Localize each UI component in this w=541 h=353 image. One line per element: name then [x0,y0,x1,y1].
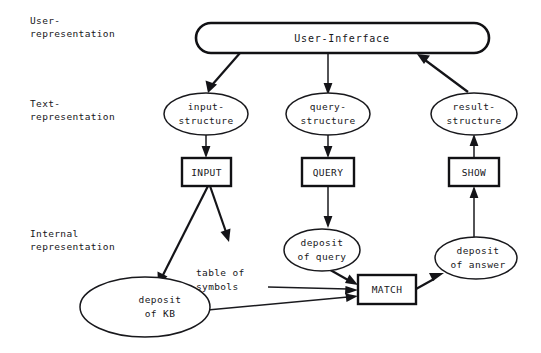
result-structure-label-line1: result- [453,101,496,112]
tier-label-text-line1: Text- [30,98,60,109]
edge-query-structure-to-query [324,134,333,158]
edge-table-of-symbols-to-match [268,286,358,295]
tier-label-user-line2: representation [30,28,115,39]
input-process-label: INPUT [191,167,222,178]
node-table-of-symbols[interactable]: table of symbols [196,267,245,292]
edge-query-to-deposit-of-query [324,186,333,228]
deposit-of-kb-label-line1: deposit [139,294,182,305]
tier-label-user-line1: User- [30,15,60,26]
tier-label-internal-representation: Internal representation [30,228,115,252]
result-structure-label-line2: structure [446,115,501,126]
node-input-process[interactable]: INPUT [182,158,231,186]
deposit-of-query-label-line1: deposit [301,237,344,248]
edge-ui-to-input-structure [206,53,241,93]
diagram-svg: User- representation Text- representatio… [0,0,541,353]
edge-ui-to-query-structure [324,53,333,95]
diagram-canvas: User- representation Text- representatio… [0,0,541,353]
node-match-process[interactable]: MATCH [358,275,416,304]
input-structure-label-line1: input- [188,101,225,112]
table-of-symbols-label-line2: symbols [196,281,239,292]
query-structure-label-line2: structure [300,115,355,126]
query-structure-label-line1: query- [310,101,347,112]
edge-deposit-of-answer-to-show [470,186,479,238]
show-process-label: SHOW [462,167,486,178]
edge-input-structure-to-input [202,134,211,158]
node-query-structure[interactable]: query- structure [286,93,370,135]
query-process-label: QUERY [313,167,344,178]
tier-label-user-representation: User- representation [30,15,115,39]
node-deposit-of-answer[interactable]: deposit of answer [435,237,517,279]
user-interface-label: User-Inferface [294,33,390,44]
node-show-process[interactable]: SHOW [449,158,499,186]
match-process-label: MATCH [372,284,403,295]
tier-label-internal-line2: representation [30,241,115,252]
edge-match-to-deposit-of-answer [416,273,444,289]
tier-label-text-line2: representation [30,111,115,122]
node-input-structure[interactable]: input- structure [164,93,248,135]
table-of-symbols-label-line1: table of [196,267,245,278]
input-structure-label-line2: structure [178,115,233,126]
edge-deposit-of-kb-to-match [186,294,358,313]
edge-result-structure-to-ui [417,54,468,92]
deposit-of-answer-label-line2: of answer [450,259,505,270]
deposit-of-query-label-line2: of query [298,251,347,262]
deposit-of-answer-label-line1: deposit [457,245,500,256]
tier-label-internal-line1: Internal [30,228,79,239]
edge-show-to-result-structure [470,134,479,158]
node-deposit-of-query[interactable]: deposit of query [284,229,360,271]
tier-label-text-representation: Text- representation [30,98,115,122]
deposit-of-kb-label-line2: of KB [145,308,176,319]
edge-input-to-table-of-symbols [210,186,231,242]
node-query-process[interactable]: QUERY [302,158,354,186]
node-user-interface[interactable]: User-Inferface [196,23,489,53]
node-deposit-of-kb[interactable]: deposit of KB [80,277,210,337]
node-result-structure[interactable]: result- structure [431,93,517,135]
